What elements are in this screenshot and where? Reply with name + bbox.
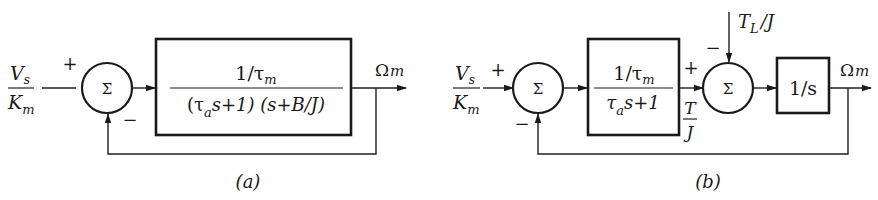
input-label-b: Vs Km xyxy=(452,62,480,117)
svg-text:τas+1: τas+1 xyxy=(606,92,660,118)
plus-sign-b2: + xyxy=(683,57,698,78)
diagram-b: Vs Km + Σ − 1/τm τas+1 + T J xyxy=(452,11,871,192)
plus-sign-b1: + xyxy=(490,59,505,80)
summing-junction-b2: Σ xyxy=(703,63,753,113)
svg-text:Km: Km xyxy=(7,91,35,117)
svg-text:1/τm: 1/τm xyxy=(613,62,654,87)
svg-text:1/τm: 1/τm xyxy=(235,62,276,87)
diagram-a: Vs Km Σ + − 1/τm (τas+1) (s+B/J) Ωm (a) xyxy=(7,39,406,192)
svg-text:Km: Km xyxy=(452,91,480,117)
torque-signal-label: T J xyxy=(683,98,697,142)
transfer-block-b1: 1/τm τas+1 xyxy=(588,39,679,135)
disturbance-label: TL/J xyxy=(738,11,776,36)
svg-text:Σ: Σ xyxy=(723,80,734,98)
svg-text:1/s: 1/s xyxy=(789,77,817,99)
svg-text:Vs: Vs xyxy=(455,62,475,87)
output-label-b: Ωm xyxy=(840,60,869,80)
minus-sign-a: − xyxy=(122,109,137,130)
svg-text:Vs: Vs xyxy=(10,62,30,87)
integrator-block: 1/s xyxy=(777,58,829,113)
svg-text:Σ: Σ xyxy=(533,80,544,98)
transfer-block-a: 1/τm (τas+1) (s+B/J) xyxy=(156,39,351,135)
svg-text:J: J xyxy=(684,122,695,142)
summing-junction-a: Σ xyxy=(82,63,132,113)
summing-junction-b1: Σ xyxy=(513,63,563,113)
block-diagrams: Vs Km Σ + − 1/τm (τas+1) (s+B/J) Ωm (a) xyxy=(0,0,878,200)
input-label-a: Vs Km xyxy=(7,62,35,117)
caption-b: (b) xyxy=(695,171,721,192)
plus-sign-a: + xyxy=(62,53,77,74)
output-label-a: Ωm xyxy=(375,60,404,80)
svg-text:Σ: Σ xyxy=(102,80,113,98)
caption-a: (a) xyxy=(236,171,261,192)
svg-text:T: T xyxy=(684,98,697,118)
minus-sign-b1: − xyxy=(514,113,529,134)
minus-sign-b2: − xyxy=(705,37,720,58)
svg-text:(τas+1) (s+B/J): (τas+1) (s+B/J) xyxy=(187,94,325,120)
